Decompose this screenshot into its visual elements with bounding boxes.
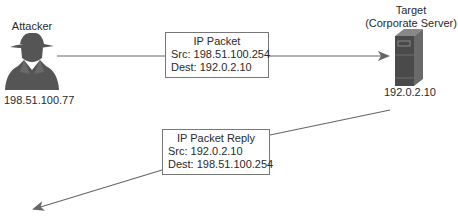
ip-packet-reply-dest: Dest: 198.51.100.254 [168, 158, 264, 171]
reply-arrow [34, 170, 162, 209]
target-label-line1: Target [364, 4, 458, 17]
ip-packet-dest: Dest: 192.0.2.10 [171, 61, 263, 74]
ip-packet-reply-title: IP Packet Reply [168, 132, 264, 145]
ip-packet-src: Src: 198.51.100.254 [171, 48, 263, 61]
reply-line-upper [270, 110, 390, 135]
ip-packet-reply-src: Src: 192.0.2.10 [168, 145, 264, 158]
attacker-ip: 198.51.100.77 [4, 94, 74, 107]
target-label: Target (Corporate Server) [364, 4, 458, 30]
ip-packet-box: IP Packet Src: 198.51.100.254 Dest: 192.… [165, 32, 269, 78]
target-label-line2: (Corporate Server) [364, 17, 458, 30]
spy-silhouette-icon [5, 33, 59, 90]
attacker-label: Attacker [8, 20, 56, 33]
ip-packet-title: IP Packet [171, 35, 263, 48]
target-ip: 192.0.2.10 [384, 86, 436, 99]
server-tower-icon [395, 29, 423, 86]
ip-packet-reply-box: IP Packet Reply Src: 192.0.2.10 Dest: 19… [162, 129, 270, 175]
